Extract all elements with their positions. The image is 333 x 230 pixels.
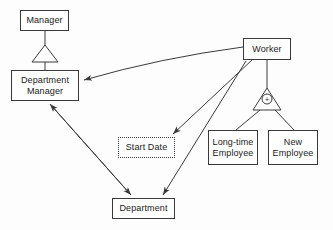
class-node-label: Department Manager	[19, 75, 71, 97]
class-node-manager[interactable]: Manager	[20, 10, 69, 31]
class-node-department[interactable]: Department	[112, 198, 175, 219]
class-node-department-manager[interactable]: Department Manager	[11, 70, 79, 101]
class-node-new-employee[interactable]: New Employee	[268, 130, 318, 165]
class-node-label: New Employee	[271, 137, 316, 159]
edge-worker-to-department	[163, 61, 246, 195]
generalization-constraint-label: +	[265, 96, 269, 103]
class-node-label: Long-time Employee	[211, 137, 256, 159]
class-node-label: Department	[117, 203, 169, 214]
diagram-edges: +	[0, 0, 333, 230]
edge-worker-to-department-manager	[84, 47, 243, 80]
diagram-canvas: + Manager Department Manager Worker St	[0, 0, 333, 230]
hollow-triangle-icon	[32, 45, 58, 62]
class-node-start-date[interactable]: Start Date	[118, 137, 175, 158]
edge-worker-generalization: +	[236, 60, 294, 130]
edge-manager-generalization	[32, 31, 58, 70]
class-node-label: Manager	[24, 15, 64, 26]
class-node-long-time-employee[interactable]: Long-time Employee	[208, 130, 258, 165]
class-node-label: Worker	[250, 44, 283, 55]
class-node-label: Start Date	[124, 142, 170, 153]
class-node-worker[interactable]: Worker	[243, 38, 291, 60]
